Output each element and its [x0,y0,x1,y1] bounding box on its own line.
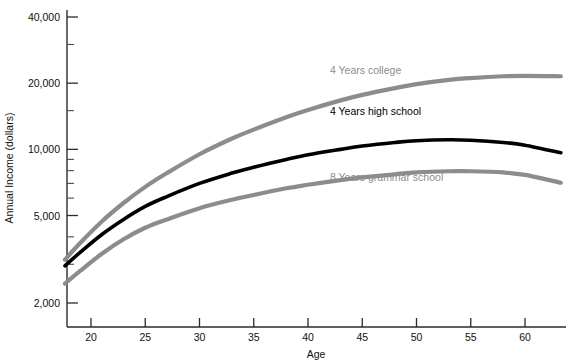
curve-4-years-high-school [65,140,561,266]
series-label-8-years-grammar-school: 8 Years grammar school [330,171,443,183]
x-tick-label-20: 20 [85,331,97,343]
y-axis-minor-ticks [67,44,74,264]
x-tick-label-60: 60 [519,331,531,343]
series-label-4-years-high-school: 4 Years high school [330,105,421,117]
x-tick-label-40: 40 [302,331,314,343]
x-tick-label-50: 50 [411,331,423,343]
curve-8-years-grammar-school [65,171,561,284]
y-tick-label-20000: 20,000 [28,77,60,89]
x-tick-label-30: 30 [194,331,206,343]
x-tick-label-45: 45 [356,331,368,343]
income-by-education-line-chart: 2,0005,00010,00020,00040,000 20253035404… [0,0,569,363]
series-label-4-years-college: 4 Years college [330,64,401,76]
series-curves [65,76,561,284]
x-tick-label-55: 55 [465,331,477,343]
x-tick-label-25: 25 [139,331,151,343]
y-axis-title: Annual Income (dollars) [3,113,15,224]
y-tick-label-2000: 2,000 [34,297,60,309]
plot-axes [67,10,566,327]
chart-container: 2,0005,00010,00020,00040,000 20253035404… [0,0,569,363]
y-tick-label-10000: 10,000 [28,143,60,155]
x-tick-label-35: 35 [248,331,260,343]
x-axis-tick-labels: 202530354045505560 [85,331,531,343]
x-axis-title: Age [307,348,326,360]
y-axis-tick-labels: 2,0005,00010,00020,00040,000 [28,11,60,309]
x-axis-ticks [91,318,525,327]
y-tick-label-40000: 40,000 [28,11,60,23]
y-tick-label-5000: 5,000 [34,210,60,222]
